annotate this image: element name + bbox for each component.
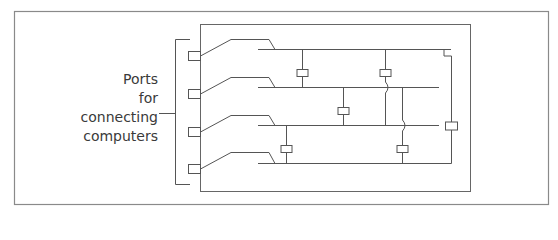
port-bracket: [159, 40, 190, 185]
port-cable: [201, 116, 276, 133]
ports-label: Ports for connecting computers: [38, 70, 158, 146]
link-node: [380, 70, 391, 77]
link-node: [446, 122, 458, 130]
ports-label-line: computers: [38, 127, 158, 146]
bracket-line: [176, 40, 191, 185]
port-socket: [189, 90, 201, 99]
link-node: [397, 146, 408, 153]
links-group: [281, 50, 458, 164]
port-socket: [189, 128, 201, 137]
port-cable: [201, 153, 276, 170]
ports-label-line: connecting: [38, 108, 158, 127]
ports-label-line: Ports: [38, 70, 158, 89]
port-cable: [201, 40, 276, 57]
link-line: [444, 50, 452, 164]
ports-group: [189, 40, 276, 174]
port-socket: [189, 165, 201, 174]
port-cable: [201, 78, 276, 95]
port-socket: [189, 52, 201, 61]
link-node: [281, 146, 292, 153]
link-node: [338, 108, 349, 115]
ports-label-line: for: [38, 89, 158, 108]
link-node: [297, 70, 308, 77]
